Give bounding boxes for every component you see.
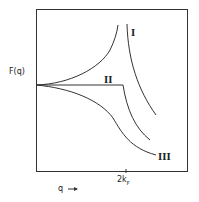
tick-label-2kf: 2kF (117, 176, 130, 186)
arrow-right-icon (74, 187, 78, 191)
y-axis-label: F(q) (9, 68, 25, 76)
curve-label-iii: III (158, 153, 171, 162)
x-axis-label: q (58, 185, 63, 193)
tick-label-main: 2k (117, 175, 127, 184)
curve-label-i: I (131, 29, 135, 38)
tick-label-sub: F (127, 180, 130, 186)
curve-ii (36, 85, 150, 140)
plot-border (37, 10, 188, 172)
curve-label-ii: II (104, 76, 112, 85)
plot-frame (0, 0, 199, 202)
curve-iii (36, 85, 156, 155)
